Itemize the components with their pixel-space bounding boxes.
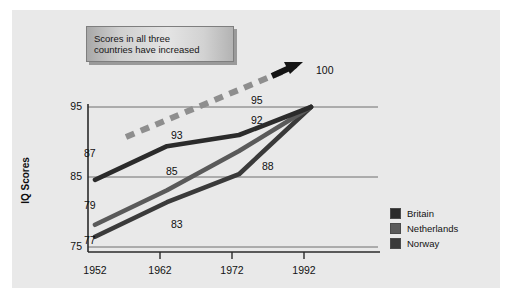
callout-box: Scores in all three countries have incre… <box>86 26 234 62</box>
y-tick-95: 95 <box>56 100 82 112</box>
legend-item-britain[interactable]: Britain <box>390 208 458 219</box>
x-tick-1952: 1952 <box>75 264 115 276</box>
data-label-britain-1972: 95 <box>251 94 263 106</box>
data-label-netherlands-1962: 85 <box>166 165 178 177</box>
y-tick-85: 85 <box>56 170 82 182</box>
axes <box>88 104 380 259</box>
callout-text: Scores in all three countries have incre… <box>94 33 200 56</box>
legend-item-netherlands[interactable]: Netherlands <box>390 223 458 234</box>
legend-swatch-norway <box>390 238 401 249</box>
legend-item-norway[interactable]: Norway <box>390 238 458 249</box>
data-label-converged-1992: 100 <box>316 64 334 76</box>
data-label-norway-1962: 83 <box>171 218 183 230</box>
data-label-netherlands-1972: 92 <box>251 114 263 126</box>
data-label-britain-1962: 93 <box>171 129 183 141</box>
x-tick-1962: 1962 <box>140 264 180 276</box>
x-tick-1972: 1972 <box>212 264 252 276</box>
y-tick-75: 75 <box>56 240 82 252</box>
y-axis-title: IQ Scores <box>20 151 31 211</box>
data-label-norway-1972: 88 <box>262 160 274 172</box>
chart-screenshot: Scores in all three countries have incre… <box>0 0 512 299</box>
legend: Britain Netherlands Norway <box>390 208 458 249</box>
legend-label-netherlands: Netherlands <box>407 223 458 234</box>
line-chart-canvas <box>0 0 512 299</box>
data-label-norway-1952: 77 <box>84 234 96 246</box>
legend-label-britain: Britain <box>407 208 434 219</box>
legend-label-norway: Norway <box>407 238 439 249</box>
legend-swatch-britain <box>390 208 401 219</box>
x-tick-1992: 1992 <box>284 264 324 276</box>
data-label-britain-1952: 87 <box>84 147 96 159</box>
data-label-netherlands-1952: 79 <box>84 199 96 211</box>
legend-swatch-netherlands <box>390 223 401 234</box>
